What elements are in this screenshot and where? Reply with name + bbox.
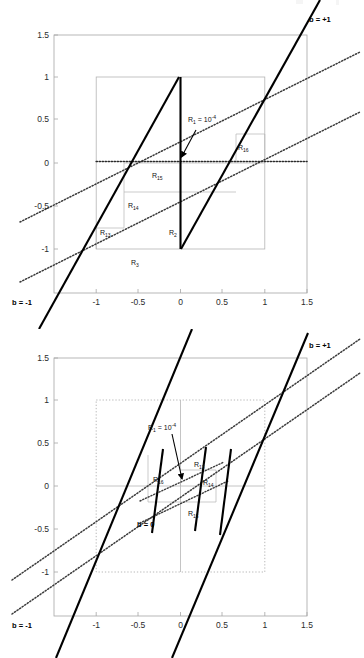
top-xtick-5: 1.5	[301, 297, 313, 307]
bottom-xtick-5: 1.5	[301, 620, 313, 630]
top-annotation-r1: R1 = 10-4	[188, 114, 216, 125]
bottom-annotation-b-minus-1: b = -1	[12, 621, 32, 630]
top-y-ticks: 1.5 1 0.5 0 -0.5 -1	[34, 30, 58, 254]
top-annotation-b-plus-1: b = +1	[309, 15, 331, 24]
top-annotation-r3: R3	[131, 259, 139, 268]
top-annotation-r13: R13	[100, 229, 111, 238]
top-ytick-0: 1.5	[37, 30, 49, 40]
bottom-solid-curves	[56, 329, 308, 658]
bottom-annotation-r14: R14	[203, 479, 214, 488]
top-chart-svg: 1.5 1 0.5 0 -0.5 -1 -1 -0.5 0 0.5 1	[0, 0, 364, 329]
bottom-annotation-b-plus-1: b = +1	[309, 341, 331, 350]
bottom-dotted-lines	[12, 339, 360, 614]
bottom-ytick-3: 0	[44, 481, 49, 491]
bottom-ytick-4: -0.5	[34, 524, 49, 534]
bottom-annotation-r1: R1 = 10-4	[148, 422, 176, 433]
bottom-xtick-2: 0	[178, 620, 183, 630]
bottom-xtick-0: -1	[92, 620, 100, 630]
bottom-xtick-1: -0.5	[131, 620, 146, 630]
bottom-ytick-5: -1	[41, 567, 49, 577]
top-annotation-b-minus-1: b = -1	[12, 298, 32, 307]
top-annotation-r2: R2	[169, 229, 177, 238]
bottom-chart-svg: 1.5 1 0.5 0 -0.5 -1 -1 -0.5 0 0.5 1	[0, 329, 364, 658]
top-ytick-5: -1	[41, 244, 49, 254]
top-annotation-r15: R15	[152, 172, 163, 181]
top-r1-arrow	[182, 130, 197, 157]
top-ytick-4: -0.5	[34, 201, 49, 211]
figure-container: 1.5 1 0.5 0 -0.5 -1 -1 -0.5 0 0.5 1	[0, 0, 364, 658]
bottom-y-ticks: 1.5 1 0.5 0 -0.5 -1	[34, 353, 58, 577]
top-ytick-2: 0.5	[37, 114, 49, 124]
bottom-ytick-0: 1.5	[37, 353, 49, 363]
bottom-annotation-b-zero: b = 0	[137, 520, 154, 529]
bottom-x-ticks: -1 -0.5 0 0.5 1 1.5	[92, 612, 313, 630]
top-xtick-0: -1	[92, 297, 100, 307]
top-annotation-r14: R14	[128, 202, 139, 211]
top-xtick-3: 0.5	[216, 297, 228, 307]
chart-panel-bottom: 1.5 1 0.5 0 -0.5 -1 -1 -0.5 0 0.5 1	[0, 329, 364, 658]
top-x-ticks: -1 -0.5 0 0.5 1 1.5	[92, 289, 313, 307]
top-annotation-r16: R16	[238, 144, 249, 153]
chart-panel-top: 1.5 1 0.5 0 -0.5 -1 -1 -0.5 0 0.5 1	[0, 0, 364, 329]
top-xtick-1: -0.5	[131, 297, 146, 307]
bottom-ytick-1: 1	[44, 395, 49, 405]
top-xtick-4: 1	[262, 297, 267, 307]
top-ytick-3: 0	[44, 158, 49, 168]
bottom-ytick-2: 0.5	[37, 438, 49, 448]
bottom-xtick-4: 1	[262, 620, 267, 630]
top-dotted-lines	[20, 52, 360, 282]
bottom-xtick-3: 0.5	[216, 620, 228, 630]
top-solid-curves	[39, 0, 320, 329]
top-ytick-1: 1	[44, 72, 49, 82]
top-xtick-2: 0	[178, 297, 183, 307]
